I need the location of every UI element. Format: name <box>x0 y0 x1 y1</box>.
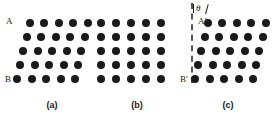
lattice-dot <box>157 75 165 83</box>
lattice-dot <box>52 33 60 41</box>
lattice-dot <box>97 33 105 41</box>
lattice-dot <box>235 75 243 83</box>
lattice-dot <box>127 19 135 27</box>
lattice-dot <box>37 33 45 41</box>
lattice-dot <box>69 19 77 27</box>
lattice-dot <box>77 47 85 55</box>
lattice-dot <box>71 75 79 83</box>
lattice-dot <box>13 75 21 83</box>
vertex-label-a-bottom: B <box>5 75 11 84</box>
lattice-dot <box>142 19 150 27</box>
lattice-dot <box>197 47 205 55</box>
lattice-dot <box>259 33 267 41</box>
lattice-dot <box>31 61 39 69</box>
vertex-label-c-top: A′ <box>198 17 206 26</box>
lattice-dot <box>40 19 48 27</box>
lattice-dot <box>97 75 105 83</box>
lattice-dot <box>63 47 71 55</box>
lattice-dot <box>112 33 120 41</box>
theta-symbol: θ <box>196 4 200 13</box>
lattice-dot <box>97 61 105 69</box>
lattice-dot <box>241 47 249 55</box>
lattice-dot <box>244 33 252 41</box>
lattice-dot <box>26 19 34 27</box>
vertex-label-a-top: A <box>6 17 13 26</box>
lattice-dot <box>45 61 53 69</box>
lattice-dot <box>48 47 56 55</box>
angle-tick-slanted <box>205 4 209 14</box>
lattice-dot <box>238 61 246 69</box>
lattice-dot <box>252 61 260 69</box>
lattice-dot <box>19 47 27 55</box>
lattice-dot <box>220 75 228 83</box>
lattice-dot <box>212 47 220 55</box>
lattice-dot <box>55 19 63 27</box>
lattice-dot <box>112 19 120 27</box>
lattice-dot <box>127 75 135 83</box>
vertex-label-c-bottom: B′ <box>180 75 188 84</box>
caption-c: (c) <box>216 101 240 110</box>
lattice-dot <box>218 19 226 27</box>
lattice-figure: A B (a) (b) θ A′ B′ (c) <box>0 0 274 121</box>
lattice-dot <box>157 47 165 55</box>
lattice-dot <box>127 61 135 69</box>
lattice-dot <box>157 33 165 41</box>
lattice-dot <box>223 61 231 69</box>
lattice-dot <box>157 61 165 69</box>
lattice-dot <box>249 75 257 83</box>
angle-tick-vertical <box>193 4 194 13</box>
reference-axis-dashed <box>191 3 193 83</box>
lattice-dot <box>255 47 263 55</box>
lattice-dot <box>42 75 50 83</box>
lattice-dot <box>157 19 165 27</box>
lattice-dot <box>66 33 74 41</box>
lattice-dot <box>233 19 241 27</box>
lattice-dot <box>74 61 82 69</box>
lattice-dot <box>84 19 92 27</box>
lattice-dot <box>194 61 202 69</box>
lattice-dot <box>60 61 68 69</box>
lattice-dot <box>127 47 135 55</box>
lattice-dot <box>206 75 214 83</box>
lattice-dot <box>230 33 238 41</box>
caption-b: (b) <box>125 101 149 110</box>
lattice-dot <box>112 61 120 69</box>
caption-a: (a) <box>40 101 64 110</box>
lattice-dot <box>112 75 120 83</box>
lattice-dot <box>247 19 255 27</box>
lattice-dot <box>201 33 209 41</box>
lattice-dot <box>215 33 223 41</box>
lattice-dot <box>209 61 217 69</box>
lattice-dot <box>142 33 150 41</box>
lattice-dot <box>23 33 31 41</box>
lattice-dot <box>112 47 120 55</box>
lattice-dot <box>191 75 199 83</box>
lattice-dot <box>226 47 234 55</box>
lattice-dot <box>142 75 150 83</box>
lattice-dot <box>127 33 135 41</box>
lattice-dot <box>262 19 270 27</box>
lattice-dot <box>97 19 105 27</box>
lattice-dot <box>142 47 150 55</box>
lattice-dot <box>34 47 42 55</box>
lattice-dot <box>57 75 65 83</box>
lattice-dot <box>81 33 89 41</box>
lattice-dot <box>97 47 105 55</box>
lattice-dot <box>16 61 24 69</box>
lattice-dot <box>28 75 36 83</box>
lattice-dot <box>142 61 150 69</box>
